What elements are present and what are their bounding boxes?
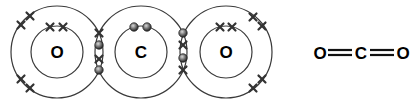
dot-electron-icon (130, 23, 138, 31)
formula-atom-left: O (313, 44, 326, 63)
cross-electron-icon (96, 56, 103, 63)
structural-formula: O C O (313, 44, 409, 63)
formula-atom-center: C (355, 44, 367, 63)
atom-label: O (219, 43, 232, 62)
dot-electron-icon (95, 66, 103, 74)
formula-atom-right: O (396, 44, 409, 63)
shared-electrons-left-bond (95, 30, 103, 75)
co2-dot-cross-diagram: O C O O (0, 0, 418, 104)
dot-electron-icon (143, 23, 151, 31)
cross-electron-icon (96, 30, 103, 37)
dot-electron-icon (179, 29, 187, 37)
atom-label: O (50, 43, 63, 62)
carbon-atom: C (95, 6, 187, 98)
oxygen-atom-right: O (180, 6, 272, 98)
oxygen-atom-left: O (11, 6, 103, 98)
dot-electron-icon (179, 54, 187, 62)
atom-label: C (135, 43, 147, 62)
dot-electron-icon (95, 41, 103, 49)
